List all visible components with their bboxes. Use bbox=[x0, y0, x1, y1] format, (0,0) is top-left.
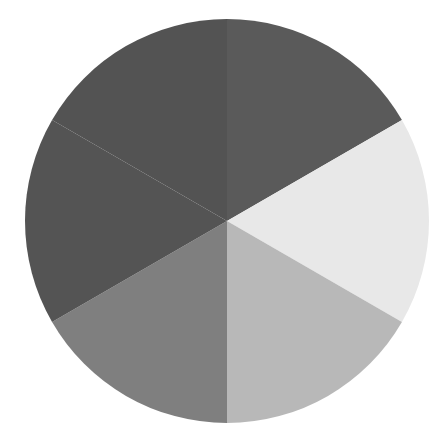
pie-slice-group bbox=[25, 19, 429, 423]
pie-chart-figure bbox=[0, 0, 448, 433]
pie-chart-canvas bbox=[0, 0, 448, 433]
